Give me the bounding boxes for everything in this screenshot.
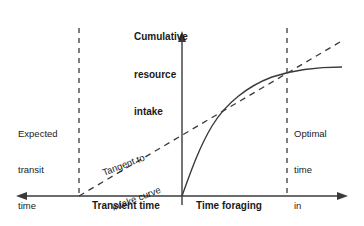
- expected-transit-line-2: transit: [18, 164, 58, 176]
- tangent-label-line-2: intake curve: [92, 177, 180, 220]
- expected-transit-line-3: time: [18, 200, 58, 212]
- time-foraging-label: Time foraging: [196, 200, 262, 212]
- optimal-time-line-3: in: [294, 200, 327, 212]
- expected-transit-line-1: Expected: [18, 128, 58, 140]
- arrow-right-icon: [337, 192, 348, 200]
- optimal-time-line-1: Optimal: [294, 128, 327, 140]
- optimal-time-in-patch-label: Optimal time in patch: [294, 104, 327, 226]
- tangent-label-line-1: Tangent to: [79, 143, 167, 186]
- y-axis-title-line-3: intake: [134, 106, 188, 119]
- expected-transit-time-label: Expected transit time: [18, 104, 58, 226]
- marginal-value-theorem-figure: Cumulative resource intake Expected tran…: [0, 0, 364, 226]
- y-axis-title-line-2: resource: [134, 69, 188, 82]
- transient-time-label: Transient time: [92, 200, 160, 212]
- optimal-time-line-2: time: [294, 164, 327, 176]
- y-axis-title-line-1: Cumulative: [134, 31, 188, 44]
- y-axis-title: Cumulative resource intake: [134, 6, 188, 144]
